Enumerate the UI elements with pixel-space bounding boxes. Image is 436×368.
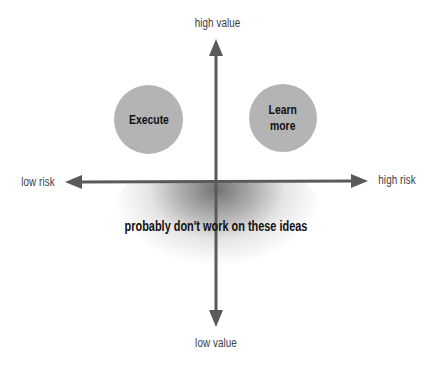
axis-label-high-risk: high risk xyxy=(377,173,418,187)
avoid-zone-label: probably don't work on these ideas xyxy=(122,218,309,234)
quadrant-learn-more-circle: Learn more xyxy=(249,84,317,152)
quadrant-execute-circle: Execute xyxy=(114,85,183,154)
arrow-down-icon xyxy=(209,310,223,327)
axes xyxy=(0,0,436,368)
arrow-right-icon xyxy=(351,174,368,188)
axis-label-high-value: high value xyxy=(195,16,238,30)
arrow-left-icon xyxy=(65,175,82,189)
axis-label-low-value: low value xyxy=(195,336,238,350)
quadrant-execute-label: Execute xyxy=(129,112,169,128)
quadrant-learn-more-label: Learn more xyxy=(269,102,297,134)
arrow-up-icon xyxy=(209,39,223,56)
quadrant-diagram: high value low value low risk high risk … xyxy=(0,0,436,368)
axis-label-low-risk: low risk xyxy=(18,175,57,189)
